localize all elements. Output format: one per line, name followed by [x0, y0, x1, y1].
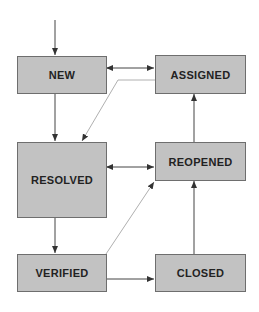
state-resolved: RESOLVED [17, 142, 107, 218]
state-closed: CLOSED [155, 254, 246, 292]
bug-lifecycle-diagram: NEW ASSIGNED RESOLVED REOPENED VERIFIED … [0, 0, 259, 312]
state-verified: VERIFIED [17, 254, 107, 292]
verified-to-reopened-arrow [106, 182, 154, 254]
state-reopened: REOPENED [155, 142, 246, 181]
state-new: NEW [17, 56, 107, 94]
state-assigned: ASSIGNED [155, 55, 246, 94]
